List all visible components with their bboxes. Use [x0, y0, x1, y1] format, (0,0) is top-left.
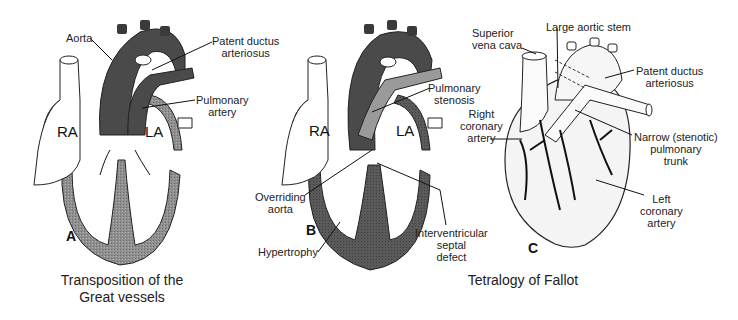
chamber-la-b: LA	[396, 122, 414, 139]
label-narrow-pulmonary-trunk: Narrow (stenotic) pulmonary trunk	[634, 131, 718, 167]
label-line: trunk	[634, 155, 718, 167]
label-line: Patent ductus	[212, 35, 279, 47]
label-left-coronary-artery: Left coronary artery	[640, 193, 683, 229]
panel-c-heart	[490, 28, 652, 247]
label-line: aorta	[255, 203, 306, 215]
label-patent-ductus-arteriosus-c: Patent ductus arteriosus	[636, 65, 703, 89]
label-superior-vena-cava: Superior vena cava	[472, 27, 522, 51]
label-aorta: Aorta	[66, 32, 92, 44]
label-line: artery	[196, 106, 249, 118]
label-right-coronary-artery: Right coronary artery	[460, 108, 503, 144]
label-line: Superior	[472, 27, 522, 39]
label-line: Narrow (stenotic)	[634, 131, 718, 143]
label-line: coronary	[640, 205, 683, 217]
label-line: Interventricular	[415, 227, 488, 239]
caption-line: Transposition of the	[52, 272, 192, 289]
caption-transposition: Transposition of the Great vessels	[52, 272, 192, 306]
label-line: Left	[640, 193, 683, 205]
label-line: Pulmonary	[196, 94, 249, 106]
label-line: pulmonary	[634, 143, 718, 155]
panel-letter-a: A	[66, 228, 76, 244]
label-line: septal	[415, 239, 488, 251]
label-line: Pulmonary	[428, 82, 481, 94]
label-line: artery	[460, 132, 503, 144]
label-pulmonary-stenosis: Pulmonary stenosis	[428, 82, 481, 106]
label-pulmonary-artery: Pulmonary artery	[196, 94, 249, 118]
label-hypertrophy: Hypertrophy	[258, 246, 318, 258]
panel-letter-c: C	[528, 240, 538, 256]
label-line: Right	[460, 108, 503, 120]
panel-letter-b: B	[306, 222, 316, 238]
chamber-ra-b: RA	[309, 122, 330, 139]
panel-a-heart	[34, 20, 212, 265]
label-line: arteriosus	[636, 77, 703, 89]
caption-line: Great vessels	[52, 289, 192, 306]
label-ventricular-septal-defect: Interventricular septal defect	[415, 227, 488, 263]
label-line: Overriding	[255, 191, 306, 203]
label-line: stenosis	[428, 94, 481, 106]
label-large-aortic-stem: Large aortic stem	[546, 21, 631, 33]
chamber-ra-a: RA	[57, 123, 78, 140]
label-line: coronary	[460, 120, 503, 132]
label-line: vena cava	[472, 39, 522, 51]
label-patent-ductus-arteriosus-a: Patent ductus arteriosus	[212, 35, 279, 59]
chamber-la-a: LA	[145, 123, 163, 140]
caption-tetralogy-of-fallot: Tetralogy of Fallot	[438, 272, 608, 289]
label-line: Patent ductus	[636, 65, 703, 77]
label-overriding-aorta: Overriding aorta	[255, 191, 306, 215]
label-line: arteriosus	[212, 47, 279, 59]
label-line: defect	[415, 251, 488, 263]
label-line: artery	[640, 217, 683, 229]
